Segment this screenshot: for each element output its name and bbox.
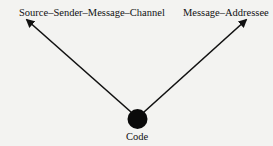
node-code-circle [128, 109, 148, 129]
diagram-canvas [0, 0, 273, 146]
edge-arrow-code-to-source [27, 20, 131, 112]
edge-arrow-code-to-addressee [144, 20, 246, 112]
